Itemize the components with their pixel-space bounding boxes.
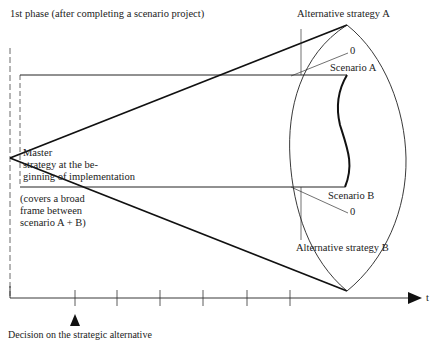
label-covers-3: scenario A + B) [20, 217, 86, 229]
label-zero-b: 0 [350, 206, 355, 218]
start-of-implementation-arrow [70, 314, 80, 326]
label-master-strategy-1: Master [23, 147, 52, 159]
time-axis-arrowhead [408, 292, 422, 304]
label-covers-2: frame between [20, 205, 82, 217]
label-master-strategy-3: ginning of implementation [23, 171, 135, 183]
label-master-strategy-2: strategy at the be- [23, 159, 98, 171]
label-scenario-b: Scenario B [328, 190, 374, 202]
bottom-caption-clipped: Decision on the strategic alternative [8, 329, 152, 341]
diagram-title: 1st phase (after completing a scenario p… [10, 8, 204, 20]
label-zero-a: 0 [350, 45, 355, 57]
scenario-wave [338, 75, 349, 187]
strategy-a-line [10, 25, 347, 158]
label-scenario-a: Scenario A [330, 62, 376, 74]
label-alternative-strategy-b: Alternative strategy B [296, 242, 389, 254]
label-time-axis: t [426, 292, 429, 304]
label-covers-1: (covers a broad [20, 193, 85, 205]
label-alternative-strategy-a: Alternative strategy A [297, 8, 390, 20]
